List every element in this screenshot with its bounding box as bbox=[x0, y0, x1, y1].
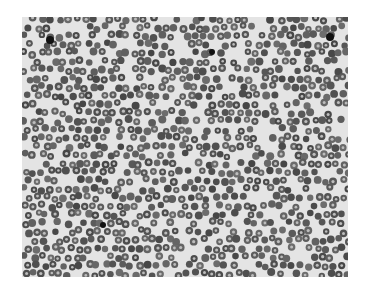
microscopy-image bbox=[22, 17, 348, 277]
blood-cells-field bbox=[22, 17, 348, 277]
